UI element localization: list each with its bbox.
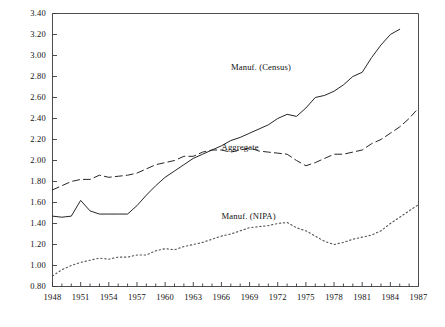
y-tick-label: 1.40 — [12, 218, 46, 228]
chart-plot-svg — [0, 0, 445, 327]
y-tick-label: 3.40 — [12, 8, 46, 18]
y-tick-label: 2.20 — [12, 134, 46, 144]
y-tick-label: 2.60 — [12, 92, 46, 102]
y-tick-label: 3.00 — [12, 50, 46, 60]
y-tick-label: 1.20 — [12, 239, 46, 249]
x-tick-label: 1987 — [402, 292, 436, 302]
y-tick-label: 0.80 — [12, 281, 46, 291]
chart-container: 0.801.001.201.401.601.802.002.202.402.60… — [0, 0, 445, 327]
y-tick-label: 1.00 — [12, 260, 46, 270]
series-label-0: Manuf. (Census) — [231, 62, 291, 72]
y-tick-label: 1.80 — [12, 176, 46, 186]
y-tick-label: 3.20 — [12, 29, 46, 39]
series-line-0 — [53, 29, 400, 217]
y-tick-label: 2.00 — [12, 155, 46, 165]
series-label-1: Aggregate — [222, 142, 259, 152]
y-tick-label: 2.80 — [12, 71, 46, 81]
series-label-2: Manuf. (NIPA) — [222, 211, 276, 221]
y-tick-label: 1.60 — [12, 197, 46, 207]
y-tick-label: 2.40 — [12, 113, 46, 123]
